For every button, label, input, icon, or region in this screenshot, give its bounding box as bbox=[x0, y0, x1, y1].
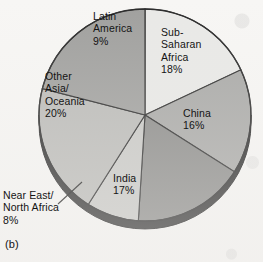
pie-label-other-asia-oceania: Other Asia/ Oceania 20% bbox=[45, 70, 85, 120]
pie-label-sub-saharan-africa: Sub- Saharan Africa 18% bbox=[161, 26, 201, 76]
figure-panel: Sub- Saharan Africa 18% China 16% India … bbox=[0, 0, 263, 262]
pie-label-near-east-north-africa: Near East/ North Africa 8% bbox=[3, 189, 59, 226]
pie-label-india: India 17% bbox=[113, 172, 136, 197]
pie-label-china: China 16% bbox=[183, 107, 211, 132]
figure-caption: (b) bbox=[5, 238, 19, 250]
pie-label-latin-america: Latin America 9% bbox=[93, 10, 132, 47]
